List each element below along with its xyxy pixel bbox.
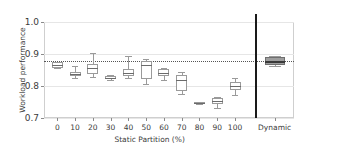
x-tick-label: Dynamic xyxy=(258,123,291,132)
y-axis-title: Workload performance xyxy=(18,27,27,112)
x-tick-mark xyxy=(111,118,112,121)
y-tick-label: 0.8 xyxy=(25,81,39,91)
x-tick-mark xyxy=(93,118,94,121)
y-tick-label: 1.0 xyxy=(25,17,39,27)
static-dynamic-separator xyxy=(255,14,257,118)
x-tick-mark xyxy=(164,118,165,121)
x-tick-label: 50 xyxy=(141,123,151,132)
boxplot-figure: Workload performance 0.70.80.91.0 010203… xyxy=(0,0,339,148)
x-tick-mark xyxy=(199,118,200,121)
x-tick-label: 70 xyxy=(177,123,187,132)
y-tick-label: 0.7 xyxy=(25,113,39,123)
x-tick-label: 90 xyxy=(212,123,222,132)
plot-area xyxy=(44,22,294,118)
x-tick-mark xyxy=(75,118,76,121)
cap-lower xyxy=(269,66,281,67)
gridline xyxy=(44,118,294,119)
x-tick-mark xyxy=(146,118,147,121)
x-tick-mark xyxy=(182,118,183,121)
x-tick-mark xyxy=(217,118,218,121)
x-tick-label: 100 xyxy=(228,123,242,132)
x-tick-mark xyxy=(128,118,129,121)
x-tick-label: 30 xyxy=(106,123,116,132)
x-tick-mark xyxy=(235,118,236,121)
x-tick-label: 40 xyxy=(124,123,134,132)
median-line xyxy=(265,61,285,63)
x-tick-label: 20 xyxy=(88,123,98,132)
x-tick-label: 80 xyxy=(195,123,205,132)
x-axis-title: Static Partition (%) xyxy=(114,135,184,144)
x-tick-label: 0 xyxy=(55,123,60,132)
x-tick-mark xyxy=(57,118,58,121)
x-tick-label: 60 xyxy=(159,123,169,132)
x-tick-label: 10 xyxy=(70,123,80,132)
y-tick-label: 0.9 xyxy=(25,49,39,59)
x-tick-mark xyxy=(275,118,276,121)
